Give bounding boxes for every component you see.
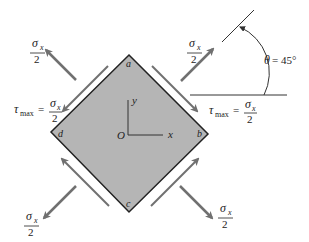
origin-label: O xyxy=(117,129,125,141)
svg-text:= 45°: = 45° xyxy=(272,54,296,66)
normal-arrow-top-left-icon xyxy=(46,50,76,80)
svg-text:σ: σ xyxy=(189,36,196,50)
svg-text:σ: σ xyxy=(220,201,227,215)
svg-text:2: 2 xyxy=(222,218,228,230)
normal-arrow-bottom-left-icon xyxy=(44,186,76,218)
svg-text:max: max xyxy=(215,110,229,119)
shear-stress-label-left: τ max = σ x 2 xyxy=(14,96,62,124)
svg-text:x: x xyxy=(56,103,61,112)
svg-text:max: max xyxy=(20,109,34,118)
svg-text:2: 2 xyxy=(191,53,197,65)
corner-label-c: c xyxy=(126,198,131,209)
svg-text:x: x xyxy=(227,208,232,217)
axis-label-y: y xyxy=(131,94,137,106)
shear-stress-label-right: τ max = σ x 2 xyxy=(209,97,257,125)
svg-text:x: x xyxy=(39,43,44,52)
normal-stress-label-bottom-left: σ x 2 xyxy=(24,209,39,238)
corner-label-a: a xyxy=(126,58,131,69)
corner-label-b: b xyxy=(197,128,202,139)
svg-text:τ: τ xyxy=(14,102,19,116)
axis-label-x: x xyxy=(167,128,173,140)
svg-text:2: 2 xyxy=(28,226,34,238)
angle-indicator: θ = 45° xyxy=(190,10,296,95)
stress-element-diagram: a b c d y x O σ x 2 σ x xyxy=(0,0,309,242)
rotated-axis-line xyxy=(222,10,254,42)
svg-text:x: x xyxy=(251,104,256,113)
normal-arrow-top-right-icon xyxy=(181,49,213,81)
svg-text:=: = xyxy=(38,103,44,115)
normal-stress-label-top-left: σ x 2 xyxy=(30,36,45,65)
normal-stress-label-bottom-right: σ x 2 xyxy=(218,201,233,230)
svg-text:σ: σ xyxy=(245,97,252,111)
svg-text:θ: θ xyxy=(264,53,270,67)
svg-text:=: = xyxy=(233,104,239,116)
svg-text:x: x xyxy=(196,43,201,52)
normal-arrow-bottom-right-icon xyxy=(180,186,212,218)
svg-text:τ: τ xyxy=(209,103,214,117)
svg-text:σ: σ xyxy=(50,96,57,110)
svg-text:2: 2 xyxy=(52,112,58,124)
svg-text:2: 2 xyxy=(34,53,40,65)
svg-text:x: x xyxy=(33,216,38,225)
svg-text:σ: σ xyxy=(26,209,33,223)
svg-text:2: 2 xyxy=(247,113,253,125)
svg-text:σ: σ xyxy=(32,36,39,50)
